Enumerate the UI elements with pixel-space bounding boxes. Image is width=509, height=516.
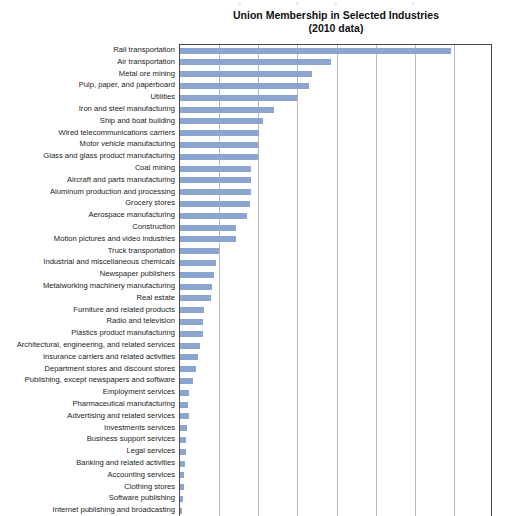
bar <box>180 449 186 455</box>
bar <box>180 142 258 148</box>
category-label: Metalworking machinery manufacturing <box>0 281 177 290</box>
category-label: Employment services <box>0 387 177 396</box>
cropped-top-edge-artifact <box>0 0 509 7</box>
bar <box>180 248 219 254</box>
bar <box>180 130 259 136</box>
bar <box>180 166 251 172</box>
bar <box>180 461 185 467</box>
category-label: Aluminum production and processing <box>0 187 177 196</box>
category-label: Motor vehicle manufacturing <box>0 139 177 148</box>
category-label: Architectural, engineering, and related … <box>0 340 177 349</box>
category-label: Industrial and miscellaneous chemicals <box>0 257 177 266</box>
category-label: Banking and related activities <box>0 458 177 467</box>
category-label: Construction <box>0 222 177 231</box>
plot-area <box>179 44 492 516</box>
bar <box>180 284 212 290</box>
chart-title: Union Membership in Selected Industries <box>180 9 492 22</box>
category-label: Furniture and related products <box>0 305 177 314</box>
bar <box>180 378 193 384</box>
bar <box>180 319 203 325</box>
bar <box>180 331 203 337</box>
bars-layer <box>180 45 491 516</box>
category-label: Aircraft and parts manufacturing <box>0 175 177 184</box>
category-label: Plastics product manufacturing <box>0 328 177 337</box>
category-label: Clothing stores <box>0 482 177 491</box>
bar <box>180 508 182 514</box>
bar <box>180 295 211 301</box>
category-label: Iron and steel manufacturing <box>0 104 177 113</box>
bar <box>180 484 184 490</box>
category-label: Newspaper publishers <box>0 269 177 278</box>
bar <box>180 118 263 124</box>
category-label: Investments services <box>0 423 177 432</box>
bar <box>180 189 251 195</box>
bar <box>180 343 200 349</box>
bar <box>180 472 184 478</box>
bar <box>180 354 198 360</box>
category-label: Ship and boat building <box>0 116 177 125</box>
bar <box>180 213 247 219</box>
category-label: Rail transportation <box>0 45 177 54</box>
category-axis-labels: Rail transportationAir transportationMet… <box>0 44 177 516</box>
category-label: Business support services <box>0 434 177 443</box>
category-label: Aerospace manufacturing <box>0 210 177 219</box>
bar <box>180 225 236 231</box>
category-label: Publishing, except newspapers and softwa… <box>0 375 177 384</box>
bar <box>180 272 214 278</box>
bar <box>180 496 183 502</box>
category-label: Air transportation <box>0 57 177 66</box>
category-label: Software publishing <box>0 493 177 502</box>
bar <box>180 201 250 207</box>
bar <box>180 236 236 242</box>
bar <box>180 366 196 372</box>
category-label: Glass and glass product manufacturing <box>0 151 177 160</box>
category-label: Real estate <box>0 293 177 302</box>
bar <box>180 95 297 101</box>
chart-subtitle: (2010 data) <box>180 22 492 35</box>
bar <box>180 425 187 431</box>
bar <box>180 107 274 113</box>
category-label: Metal ore mining <box>0 69 177 78</box>
category-label: Pharmaceutical manufacturing <box>0 399 177 408</box>
category-label: Pulp, paper, and paperboard <box>0 80 177 89</box>
bar <box>180 48 451 54</box>
category-label: Coal mining <box>0 163 177 172</box>
category-label: Truck transportation <box>0 246 177 255</box>
bar <box>180 83 309 89</box>
union-membership-bar-chart: Union Membership in Selected Industries … <box>0 0 509 516</box>
bar <box>180 390 189 396</box>
category-label: Department stores and discount stores <box>0 364 177 373</box>
category-label: Radio and television <box>0 316 177 325</box>
bar <box>180 437 186 443</box>
category-label: Grocery stores <box>0 198 177 207</box>
bar <box>180 177 251 183</box>
bar <box>180 260 216 266</box>
bar <box>180 154 258 160</box>
category-label: Legal services <box>0 446 177 455</box>
category-label: Accounting services <box>0 470 177 479</box>
category-label: Advertising and related services <box>0 411 177 420</box>
category-label: Internet publishing and broadcasting <box>0 505 177 514</box>
bar <box>180 402 188 408</box>
category-label: Motion pictures and video industries <box>0 234 177 243</box>
bar <box>180 59 331 65</box>
category-label: Insurance carriers and related activitie… <box>0 352 177 361</box>
bar <box>180 413 189 419</box>
bar <box>180 307 204 313</box>
category-label: Wired telecommunications carriers <box>0 128 177 137</box>
bar <box>180 71 312 77</box>
category-label: Utilities <box>0 92 177 101</box>
